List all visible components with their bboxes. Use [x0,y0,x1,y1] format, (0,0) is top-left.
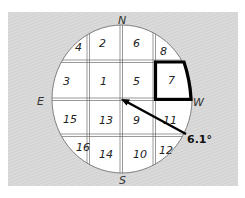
cell-3: 3 [63,75,70,88]
cell-15: 15 [63,113,77,126]
cell-6: 6 [133,37,140,50]
diagram-canvas: N S E W 4 2 6 8 3 1 5 7 15 13 9 11 16 14… [0,0,245,198]
sky-grid-diagram: N S E W 4 2 6 8 3 1 5 7 15 13 9 11 16 14… [0,0,245,198]
cell-2: 2 [99,37,106,50]
cell-16: 16 [76,141,90,154]
cell-9: 9 [133,114,140,127]
cell-13: 13 [99,114,113,127]
north-label: N [118,14,126,27]
west-label: W [193,96,205,109]
angle-label: 6.1° [187,133,212,146]
east-label: E [37,95,44,108]
cell-7: 7 [168,74,175,87]
cell-8: 8 [160,45,167,58]
cell-1: 1 [100,75,107,88]
cell-12: 12 [159,144,173,157]
south-label: S [119,174,126,187]
cell-5: 5 [133,75,140,88]
cell-4: 4 [75,41,82,54]
cell-10: 10 [133,148,147,161]
cell-14: 14 [99,148,113,161]
